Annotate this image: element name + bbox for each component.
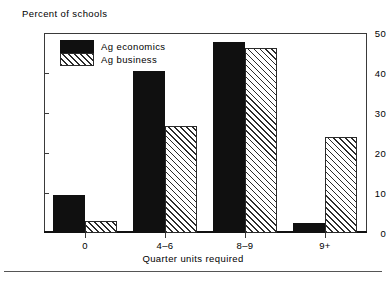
y-axis-title: Percent of schools xyxy=(22,8,107,19)
bar xyxy=(213,42,245,233)
bar xyxy=(293,223,325,233)
x-tick-label: 8–9 xyxy=(236,240,253,251)
bar xyxy=(325,137,357,233)
legend-entry: Ag economics xyxy=(60,40,190,53)
x-tick-mark xyxy=(165,233,166,238)
legend-swatch-solid xyxy=(60,40,94,53)
chart-legend: Ag economicsAg business xyxy=(60,40,190,66)
x-tick-label: 9+ xyxy=(319,240,331,251)
bar xyxy=(245,48,277,233)
x-tick-label: 4–6 xyxy=(156,240,173,251)
legend-label: Ag economics xyxy=(101,41,165,52)
legend-swatch-hatch xyxy=(60,53,94,66)
footer-rule xyxy=(4,271,382,272)
x-tick-mark xyxy=(245,233,246,238)
legend-entry: Ag business xyxy=(60,53,190,66)
x-axis-title: Quarter units required xyxy=(0,253,386,264)
bar xyxy=(133,71,165,233)
bar xyxy=(165,126,197,233)
x-tick-label: 0 xyxy=(82,240,88,251)
bar xyxy=(85,221,117,233)
bar-chart-figure: Percent of schools 01020304050 04–68–99+… xyxy=(0,0,386,284)
legend-label: Ag business xyxy=(101,54,157,65)
bar xyxy=(53,195,85,233)
x-tick-mark xyxy=(85,233,86,238)
x-tick-mark xyxy=(325,233,326,238)
